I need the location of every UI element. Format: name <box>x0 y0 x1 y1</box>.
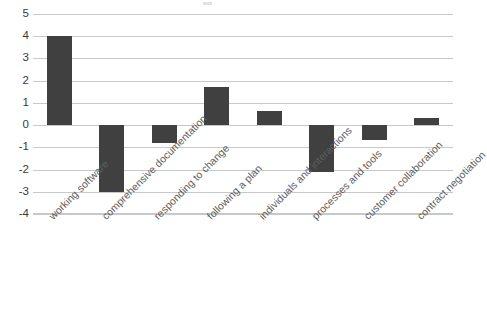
y-tick-label: 1 <box>3 97 29 109</box>
bar <box>257 111 282 125</box>
gridline <box>33 58 453 59</box>
gridline <box>33 147 453 148</box>
y-tick-label: 3 <box>3 53 29 65</box>
bar <box>47 36 72 125</box>
y-tick-label: 5 <box>3 8 29 20</box>
gridline <box>33 14 453 15</box>
gridline <box>33 36 453 37</box>
y-tick-label: 4 <box>3 30 29 42</box>
bar <box>362 125 387 139</box>
y-tick-label: -4 <box>3 208 29 220</box>
y-tick-label: -3 <box>3 186 29 198</box>
y-tick-label: -1 <box>3 142 29 154</box>
y-tick-label: -2 <box>3 164 29 176</box>
bar <box>414 118 439 125</box>
y-tick-label: 2 <box>3 75 29 87</box>
gridline <box>33 125 453 126</box>
image-artifact-speck <box>203 2 212 5</box>
y-axis: 543210-1-2-3-4 <box>0 14 29 214</box>
gridline <box>33 81 453 82</box>
y-tick-label: 0 <box>3 119 29 131</box>
gridline <box>33 103 453 104</box>
x-axis: working softwarecomprehensive documentat… <box>33 214 453 332</box>
